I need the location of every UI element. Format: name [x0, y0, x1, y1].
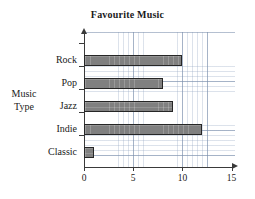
y-axis-tick — [79, 66, 84, 67]
category-label-rock: Rock — [7, 54, 77, 66]
x-axis-tick — [133, 167, 134, 171]
y-axis-tick — [79, 135, 84, 136]
x-axis-line — [84, 167, 234, 168]
bar-jazz — [84, 101, 173, 112]
category-label-indie: Indie — [7, 123, 77, 135]
plot-grid-background — [84, 32, 235, 167]
y-axis-tick — [79, 112, 84, 113]
y-axis-title-line-2: Type — [2, 101, 46, 114]
chart-title: Favourite Music — [0, 9, 255, 21]
bar-classic — [84, 147, 94, 158]
x-axis-tick — [84, 167, 85, 171]
y-axis-arrow-icon — [81, 28, 87, 34]
y-axis-tick — [79, 89, 84, 90]
x-axis-tick — [232, 167, 233, 171]
x-axis-tick-label: 10 — [170, 173, 194, 184]
x-axis-tick-label: 5 — [121, 173, 145, 184]
y-axis-title: Music Type — [2, 88, 46, 113]
x-axis-arrow-icon — [232, 163, 238, 169]
bar-pop — [84, 78, 163, 89]
y-axis-title-line-1: Music — [2, 88, 46, 101]
x-axis-tick-label: 0 — [72, 173, 96, 184]
bar-chart: Favourite Music 051015 RockPopJazzIndieC… — [0, 0, 255, 199]
y-axis-tick — [79, 43, 84, 44]
bar-rock — [84, 55, 182, 66]
x-axis-tick-label: 15 — [220, 173, 244, 184]
x-axis-tick — [182, 167, 183, 171]
bar-indie — [84, 124, 202, 135]
category-label-classic: Classic — [7, 146, 77, 158]
